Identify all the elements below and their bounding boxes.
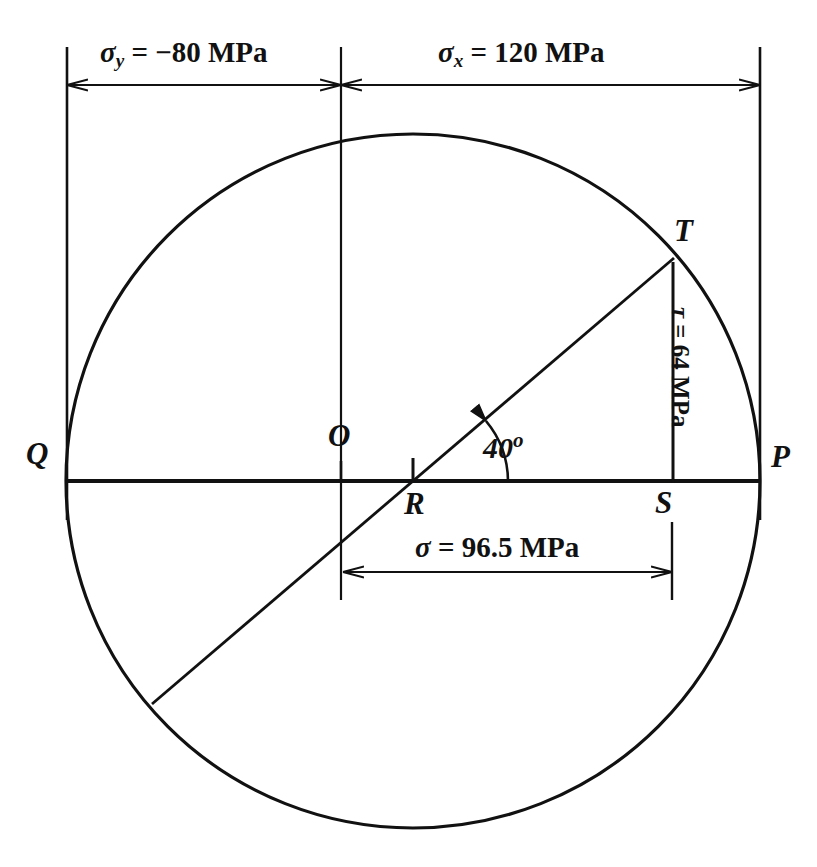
point-label-s: S <box>655 487 672 518</box>
dimension-label-sigma-x: σx = 120 MPa <box>438 38 605 70</box>
tau-equals: = <box>667 324 694 338</box>
sigma-x-subscript: x <box>454 50 464 71</box>
sigma-symbol: σ <box>415 531 431 563</box>
sigma-equals: = <box>438 531 455 563</box>
tau-symbol: τ <box>667 307 694 318</box>
dimension-label-sigma: σ = 96.5 MPa <box>415 533 579 562</box>
sigma-x-symbol: σ <box>438 36 454 68</box>
sigma-y-symbol: σ <box>100 36 116 68</box>
mohrs-circle-figure: σy = −80 MPa σx = 120 MPa σ = 96.5 MPa τ… <box>0 0 817 867</box>
point-label-t: T <box>674 215 693 246</box>
angle-value: 40 <box>483 431 513 464</box>
axis-tick-marks <box>341 458 413 481</box>
dimension-label-tau: τ = 64 MPa <box>668 307 693 427</box>
dimension-label-sigma-y: σy = −80 MPa <box>100 38 268 70</box>
point-label-q: Q <box>26 438 48 469</box>
sigma-x-equals: = <box>470 36 487 68</box>
sigma-y-subscript: y <box>116 50 125 71</box>
point-label-o: O <box>328 420 350 451</box>
tau-value: 64 MPa <box>667 345 694 428</box>
point-label-r: R <box>404 488 425 519</box>
sigma-value: 96.5 MPa <box>462 531 580 563</box>
angle-degree-unit: o <box>513 428 524 452</box>
sigma-y-value: −80 MPa <box>155 36 267 68</box>
angle-label: 40o <box>483 430 524 463</box>
point-label-p: P <box>771 441 790 472</box>
sigma-x-value: 120 MPa <box>494 36 604 68</box>
sigma-y-equals: = <box>131 36 148 68</box>
mohrs-circle-drawing <box>0 0 817 867</box>
